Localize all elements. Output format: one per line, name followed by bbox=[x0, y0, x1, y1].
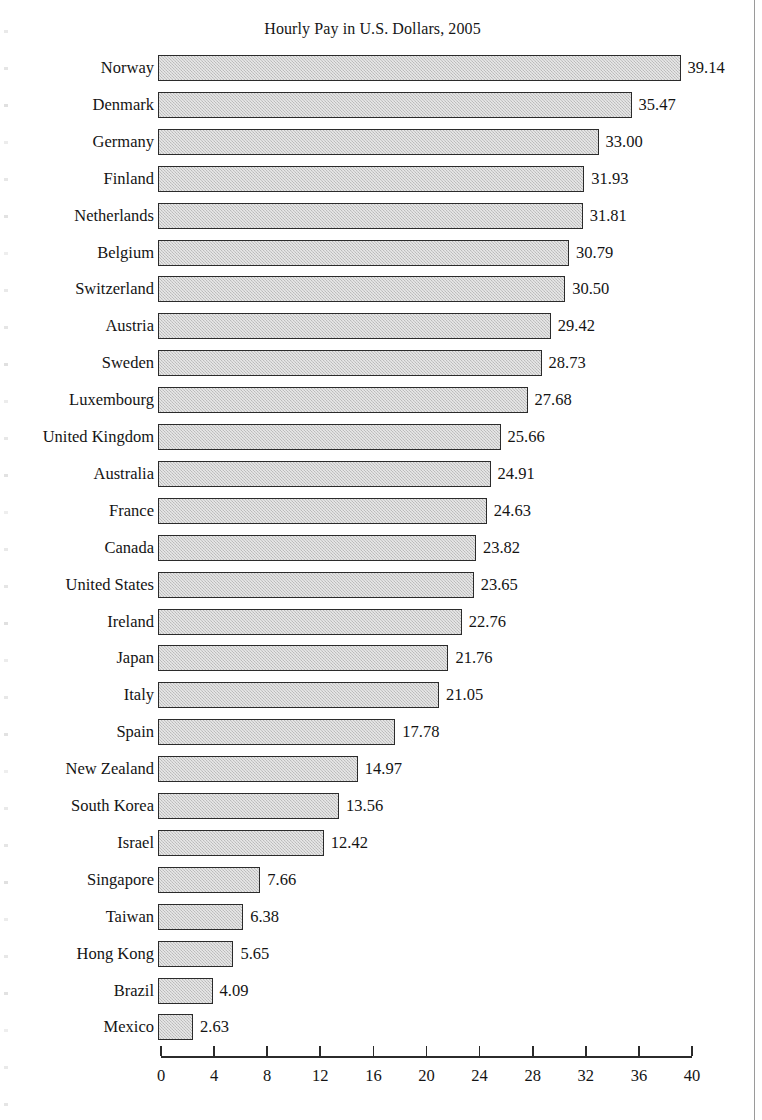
bar bbox=[158, 867, 260, 893]
bar bbox=[158, 719, 395, 745]
category-label: Luxembourg bbox=[69, 390, 154, 410]
x-axis-tick-label: 40 bbox=[684, 1066, 701, 1086]
x-axis-tick bbox=[532, 1046, 534, 1056]
x-axis-tick-label: 0 bbox=[157, 1066, 165, 1086]
category-label: United Kingdom bbox=[43, 427, 154, 447]
chart-title: Hourly Pay in U.S. Dollars, 2005 bbox=[0, 20, 745, 38]
bar-row: Canada23.82 bbox=[0, 533, 762, 563]
bar-row: France24.63 bbox=[0, 496, 762, 526]
bar-value-label: 21.76 bbox=[455, 648, 492, 668]
bar-value-label: 17.78 bbox=[402, 722, 439, 742]
x-axis-tick-label: 12 bbox=[312, 1066, 329, 1086]
bar-value-label: 33.00 bbox=[606, 132, 643, 152]
x-axis-tick-label: 4 bbox=[210, 1066, 218, 1086]
bar-row: South Korea13.56 bbox=[0, 791, 762, 821]
x-axis-tick-label: 24 bbox=[471, 1066, 488, 1086]
bar-row: Germany33.00 bbox=[0, 127, 762, 157]
bar bbox=[158, 129, 599, 155]
bar bbox=[158, 461, 491, 487]
bar bbox=[158, 830, 324, 856]
bar bbox=[158, 941, 233, 967]
bar-value-label: 27.68 bbox=[535, 390, 572, 410]
category-label: Israel bbox=[117, 833, 154, 853]
x-axis-tick bbox=[691, 1046, 693, 1056]
bar bbox=[158, 498, 487, 524]
bar bbox=[158, 424, 501, 450]
x-axis-tick bbox=[266, 1046, 268, 1056]
bar bbox=[158, 92, 632, 118]
x-axis-tick-label: 16 bbox=[365, 1066, 382, 1086]
bar bbox=[158, 793, 339, 819]
x-axis: 0481216202428323640 bbox=[0, 1056, 762, 1116]
bar bbox=[158, 904, 243, 930]
bar bbox=[158, 682, 439, 708]
category-label: Japan bbox=[116, 648, 154, 668]
bar-value-label: 6.38 bbox=[250, 907, 279, 927]
bar-row: Taiwan6.38 bbox=[0, 902, 762, 932]
bar-row: Netherlands31.81 bbox=[0, 201, 762, 231]
bar-row: United States23.65 bbox=[0, 570, 762, 600]
category-label: Brazil bbox=[114, 981, 154, 1001]
x-axis-tick-label: 36 bbox=[631, 1066, 648, 1086]
bar-row: Australia24.91 bbox=[0, 459, 762, 489]
chart-page: Hourly Pay in U.S. Dollars, 2005 Norway3… bbox=[0, 0, 762, 1120]
bar-value-label: 35.47 bbox=[639, 95, 676, 115]
bar-row: Belgium30.79 bbox=[0, 238, 762, 268]
category-label: Switzerland bbox=[75, 279, 154, 299]
category-label: United States bbox=[66, 575, 154, 595]
bar-value-label: 5.65 bbox=[240, 944, 269, 964]
bar bbox=[158, 203, 583, 229]
bar bbox=[158, 535, 476, 561]
bar-row: Austria29.42 bbox=[0, 311, 762, 341]
bar-row: Hong Kong5.65 bbox=[0, 939, 762, 969]
x-axis-tick bbox=[160, 1046, 162, 1056]
x-axis-tick-label: 8 bbox=[263, 1066, 271, 1086]
category-label: Belgium bbox=[97, 243, 154, 263]
category-label: Italy bbox=[124, 685, 154, 705]
bar bbox=[158, 350, 542, 376]
bar-value-label: 2.63 bbox=[200, 1017, 229, 1037]
bar bbox=[158, 609, 462, 635]
bar-row: United Kingdom25.66 bbox=[0, 422, 762, 452]
category-label: Mexico bbox=[104, 1017, 154, 1037]
bar-value-label: 29.42 bbox=[558, 316, 595, 336]
category-label: Finland bbox=[104, 169, 154, 189]
category-label: Hong Kong bbox=[77, 944, 154, 964]
bar bbox=[158, 166, 584, 192]
x-axis-tick-label: 28 bbox=[524, 1066, 541, 1086]
x-axis-tick bbox=[319, 1046, 321, 1056]
bar-value-label: 12.42 bbox=[331, 833, 368, 853]
category-label: Germany bbox=[93, 132, 154, 152]
bar bbox=[158, 1014, 193, 1040]
bar bbox=[158, 276, 565, 302]
bar-row: Spain17.78 bbox=[0, 717, 762, 747]
category-label: France bbox=[109, 501, 154, 521]
bar-value-label: 4.09 bbox=[220, 981, 249, 1001]
bar-value-label: 21.05 bbox=[446, 685, 483, 705]
bar-value-label: 13.56 bbox=[346, 796, 383, 816]
bar-value-label: 23.65 bbox=[481, 575, 518, 595]
bar-row: Norway39.14 bbox=[0, 53, 762, 83]
bar-row: Finland31.93 bbox=[0, 164, 762, 194]
category-label: Singapore bbox=[87, 870, 154, 890]
bar-row: Italy21.05 bbox=[0, 680, 762, 710]
category-label: Spain bbox=[116, 722, 154, 742]
bar-value-label: 14.97 bbox=[365, 759, 402, 779]
bar-value-label: 28.73 bbox=[549, 353, 586, 373]
category-label: Austria bbox=[105, 316, 154, 336]
category-label: South Korea bbox=[71, 796, 154, 816]
bar-row: Singapore7.66 bbox=[0, 865, 762, 895]
category-label: Canada bbox=[105, 538, 154, 558]
bar bbox=[158, 572, 474, 598]
category-label: Sweden bbox=[102, 353, 154, 373]
category-label: Ireland bbox=[107, 612, 154, 632]
bar-row: Ireland22.76 bbox=[0, 607, 762, 637]
bar-row: Brazil4.09 bbox=[0, 976, 762, 1006]
bar-chart-plot-area: Norway39.14Denmark35.47Germany33.00Finla… bbox=[0, 48, 762, 1058]
bar-value-label: 24.91 bbox=[498, 464, 535, 484]
category-label: Taiwan bbox=[106, 907, 154, 927]
bar-row: Japan21.76 bbox=[0, 643, 762, 673]
bar-value-label: 24.63 bbox=[494, 501, 531, 521]
category-label: Denmark bbox=[93, 95, 154, 115]
bar bbox=[158, 645, 448, 671]
